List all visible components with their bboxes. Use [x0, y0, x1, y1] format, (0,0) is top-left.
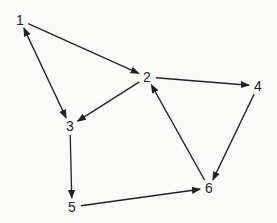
node-1: 1 [16, 13, 24, 27]
node-3: 3 [66, 119, 74, 133]
graph-canvas: 123456 [0, 0, 277, 223]
node-4: 4 [254, 79, 262, 93]
edge-1-2 [28, 24, 139, 74]
edge-2-4 [156, 78, 249, 86]
node-6: 6 [205, 181, 213, 195]
edge-3-5 [70, 135, 72, 198]
edge-1-3 [24, 28, 66, 118]
node-2: 2 [143, 70, 151, 84]
edge-2-3 [78, 82, 140, 121]
edge-5-6 [81, 189, 200, 206]
graph-edges [0, 0, 277, 223]
edge-6-2 [151, 85, 204, 180]
node-5: 5 [68, 200, 76, 214]
edge-4-6 [213, 94, 254, 180]
